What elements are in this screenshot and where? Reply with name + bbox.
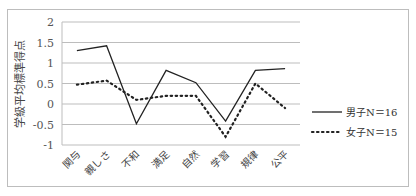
y-tick-label: 0 <box>47 98 54 111</box>
x-tick-labels: 関与親しさ不和満足自然学習規律公平 <box>60 148 290 178</box>
y-tick-label: 2 <box>47 16 54 29</box>
y-tick-label: -0.5 <box>33 119 54 132</box>
x-tick-label: 不和 <box>120 149 142 171</box>
x-tick-label: 関与 <box>60 149 82 171</box>
y-tick-label: 1 <box>47 57 54 70</box>
x-tick-label: 満足 <box>150 149 172 171</box>
series-lines <box>77 46 285 137</box>
y-tick-labels: 21.510.50-0.5-1 <box>33 16 54 152</box>
line-chart: 21.510.50-0.5-1 学級平均標準得点 関与親しさ不和満足自然学習規律… <box>0 0 416 196</box>
y-tick-label: 1.5 <box>37 37 55 50</box>
legend-male-label: 男子N＝16 <box>346 107 397 118</box>
x-tick-label: 学習 <box>208 148 231 171</box>
x-tick-label: 親しさ <box>82 148 112 178</box>
x-tick-label: 公平 <box>269 149 291 171</box>
legend-female-label: 女子N＝15 <box>346 126 397 138</box>
y-tick-label: 0.5 <box>37 78 55 91</box>
x-tick-label: 規律 <box>238 148 261 171</box>
gridlines <box>62 22 300 145</box>
x-tick-label: 自然 <box>179 148 202 171</box>
y-tick-label: -1 <box>43 139 54 152</box>
legend: 男子N＝16 女子N＝15 <box>312 107 397 138</box>
y-axis-label: 学級平均標準得点 <box>13 40 27 128</box>
series-line-1 <box>77 81 285 137</box>
